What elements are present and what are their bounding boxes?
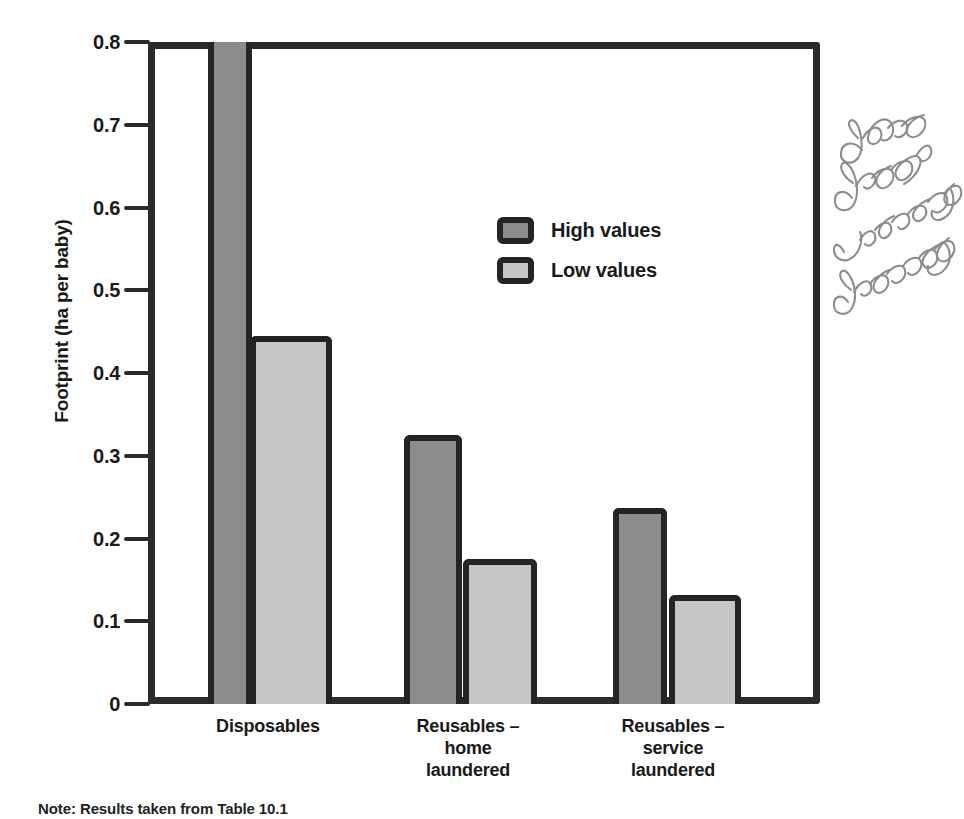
y-axis-tick-label: 0.4 xyxy=(62,362,120,385)
category-label-0: Disposables xyxy=(158,716,378,738)
category-label-line: Disposables xyxy=(158,716,378,738)
category-label-line: laundered xyxy=(358,760,578,782)
legend-label: High values xyxy=(551,219,661,242)
bar-high-1 xyxy=(404,435,462,704)
y-axis-tick-label: 0.7 xyxy=(62,113,120,136)
category-label-line: laundered xyxy=(563,760,783,782)
legend: High valuesLow values xyxy=(497,210,727,290)
legend-label: Low values xyxy=(551,259,657,282)
y-axis-tick-mark xyxy=(124,206,150,210)
category-label-line: Reusables – xyxy=(563,716,783,738)
bar-low-1 xyxy=(463,559,537,704)
y-axis-tick-label: 0.1 xyxy=(62,610,120,633)
legend-item-0: High values xyxy=(497,210,727,250)
y-axis-tick-mark xyxy=(124,454,150,458)
y-axis-tick-labels: 0.80.70.60.50.40.30.20.10 xyxy=(40,0,120,819)
y-axis-tick-mark xyxy=(124,123,150,127)
legend-item-1: Low values xyxy=(497,250,727,290)
bar-high-0 xyxy=(208,42,252,704)
y-axis-tick-label: 0.3 xyxy=(62,444,120,467)
bar-low-0 xyxy=(250,336,332,704)
y-axis-tick-mark xyxy=(124,537,150,541)
handwritten-annotation xyxy=(832,112,964,327)
y-axis-tick-label: 0.8 xyxy=(62,31,120,54)
y-axis-tick-label: 0 xyxy=(62,693,120,716)
bar-low-2 xyxy=(669,595,741,704)
source-note: Note: Results taken from Table 10.1 xyxy=(38,800,288,817)
bar-high-2 xyxy=(613,508,667,704)
y-axis-tick-mark xyxy=(124,702,150,706)
category-label-line: service xyxy=(563,738,783,760)
category-label-1: Reusables –homelaundered xyxy=(358,716,578,782)
y-axis-tick-mark xyxy=(124,40,150,44)
y-axis-tick-mark xyxy=(124,288,150,292)
y-axis-tick-mark xyxy=(124,619,150,623)
y-axis-tick-label: 0.2 xyxy=(62,527,120,550)
category-label-2: Reusables –servicelaundered xyxy=(563,716,783,782)
category-label-line: home xyxy=(358,738,578,760)
y-axis-tick-mark xyxy=(124,371,150,375)
legend-swatch-low xyxy=(497,257,534,284)
y-axis-tick-label: 0.6 xyxy=(62,196,120,219)
y-axis-tick-label: 0.5 xyxy=(62,279,120,302)
bar-chart-figure: Footprint (ha per baby) 0.80.70.60.50.40… xyxy=(0,0,964,819)
legend-swatch-high xyxy=(497,217,534,244)
category-label-line: Reusables – xyxy=(358,716,578,738)
